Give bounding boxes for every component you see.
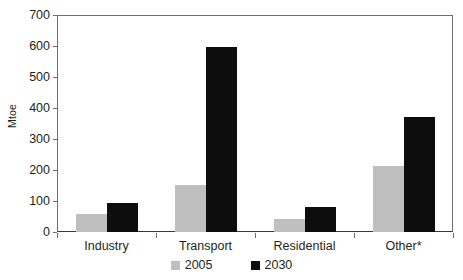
x-axis-label: Industry bbox=[57, 238, 156, 254]
legend-item-2030[interactable]: 2030 bbox=[251, 259, 293, 272]
y-axis-tick: 0 bbox=[43, 225, 57, 239]
y-axis-tick: 200 bbox=[29, 163, 57, 177]
bar-2005-residential bbox=[274, 219, 305, 232]
y-axis-tick: 300 bbox=[29, 132, 57, 146]
bar-chart: Mtoe 7006005004003002001000 IndustryTran… bbox=[0, 0, 463, 280]
y-axis-title: Mtoe bbox=[6, 90, 18, 142]
chart-legend: 20052030 bbox=[0, 257, 463, 273]
legend-label: 2005 bbox=[185, 259, 213, 272]
bar-2030-residential bbox=[305, 207, 336, 232]
bar-group bbox=[57, 15, 156, 232]
x-axis-tick-mark bbox=[156, 233, 157, 238]
x-axis-tick-mark bbox=[354, 233, 355, 238]
x-axis-label: Residential bbox=[255, 238, 354, 254]
y-axis-tick: 400 bbox=[29, 101, 57, 115]
y-axis-tick-label: 0 bbox=[43, 225, 57, 239]
y-axis-tick-label: 300 bbox=[29, 132, 57, 146]
bar-group bbox=[156, 15, 255, 232]
y-axis-tick-label: 500 bbox=[29, 70, 57, 84]
bar-2030-industry bbox=[107, 203, 138, 232]
bar-2030-transport bbox=[206, 47, 237, 232]
x-axis-tick-mark bbox=[255, 233, 256, 238]
x-axis-tick-mark bbox=[453, 233, 454, 238]
x-axis-tick-mark bbox=[57, 233, 58, 238]
legend-item-2005[interactable]: 2005 bbox=[171, 259, 213, 272]
y-axis-tick-label: 600 bbox=[29, 39, 57, 53]
y-axis-tick: 600 bbox=[29, 39, 57, 53]
bar-2030-other bbox=[404, 117, 435, 232]
x-axis-labels: IndustryTransportResidentialOther* bbox=[57, 238, 453, 254]
bar-2005-industry bbox=[76, 214, 107, 232]
y-axis-tick-label: 200 bbox=[29, 163, 57, 177]
y-axis-tick: 500 bbox=[29, 70, 57, 84]
bar-2005-other bbox=[373, 166, 404, 232]
y-axis-tick-label: 700 bbox=[29, 8, 57, 22]
y-axis-tick-label: 100 bbox=[29, 194, 57, 208]
y-axis-tick: 700 bbox=[29, 8, 57, 22]
bar-group bbox=[255, 15, 354, 232]
x-axis-label: Other* bbox=[354, 238, 453, 254]
legend-label: 2030 bbox=[265, 259, 293, 272]
bars-layer bbox=[57, 15, 453, 232]
bar-2005-transport bbox=[175, 185, 206, 232]
y-axis-tick: 100 bbox=[29, 194, 57, 208]
legend-swatch-icon bbox=[251, 261, 260, 270]
legend-swatch-icon bbox=[171, 261, 180, 270]
bar-group bbox=[354, 15, 453, 232]
y-axis-tick-label: 400 bbox=[29, 101, 57, 115]
x-axis-label: Transport bbox=[156, 238, 255, 254]
